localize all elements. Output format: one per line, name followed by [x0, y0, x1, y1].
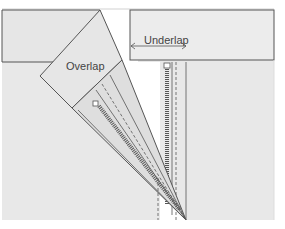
underlap-label: Underlap [144, 34, 189, 46]
zipper-stop-left [93, 101, 98, 106]
zipper-diagram [0, 0, 285, 229]
zipper-stop-right [164, 63, 170, 68]
overlap-label: Overlap [66, 60, 105, 72]
